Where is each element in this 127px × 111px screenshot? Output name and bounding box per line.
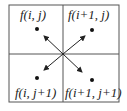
arrow-top-left: [44, 36, 63, 54]
arrow-bottom-left: [44, 54, 63, 70]
label-top-left: f(i, j): [20, 7, 46, 22]
interpolation-grid-diagram: f(i, j) f(i+1, j) f(i, j+1) f(i+1, j+1): [0, 0, 127, 111]
label-bottom-left: f(i, j+1): [15, 85, 56, 100]
label-bottom-right: f(i+1, j+1): [65, 85, 122, 100]
arrow-bottom-right: [63, 54, 82, 72]
dot-bottom-left: [35, 76, 39, 80]
dot-top-left: [35, 27, 39, 31]
arrow-top-right: [63, 36, 85, 54]
dot-top-right: [90, 28, 94, 32]
dot-bottom-right: [90, 78, 94, 82]
label-top-right: f(i+1, j): [68, 7, 109, 22]
